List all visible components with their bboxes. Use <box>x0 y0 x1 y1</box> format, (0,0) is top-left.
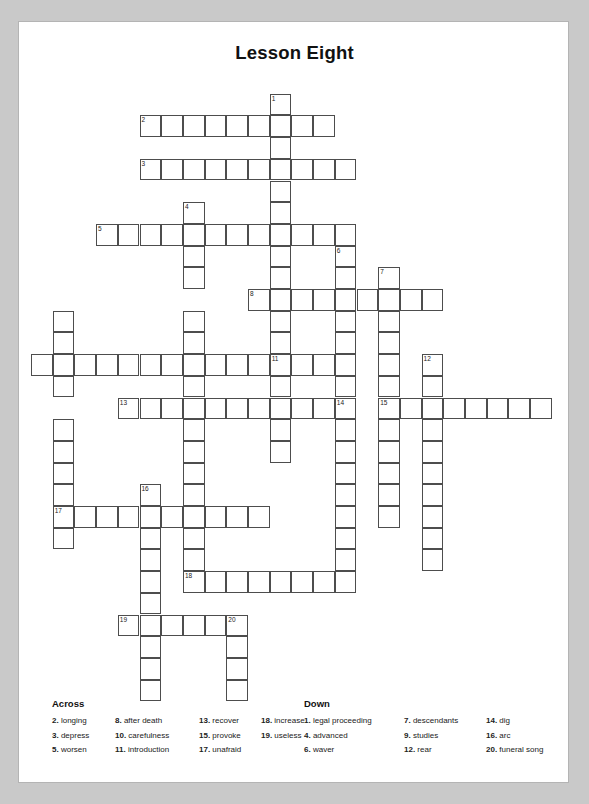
crossword-cell[interactable]: 3 <box>140 159 162 181</box>
crossword-cell[interactable] <box>183 441 205 463</box>
crossword-cell[interactable] <box>422 506 444 528</box>
crossword-cell[interactable] <box>140 528 162 550</box>
crossword-cell[interactable] <box>422 376 444 398</box>
crossword-cell[interactable] <box>205 224 227 246</box>
crossword-cell[interactable]: 16 <box>140 484 162 506</box>
crossword-cell[interactable] <box>118 224 140 246</box>
crossword-cell[interactable] <box>422 441 444 463</box>
crossword-cell[interactable] <box>291 289 313 311</box>
crossword-cell[interactable] <box>183 376 205 398</box>
crossword-cell[interactable] <box>270 137 292 159</box>
crossword-cell[interactable] <box>335 549 357 571</box>
crossword-cell[interactable] <box>226 224 248 246</box>
crossword-cell[interactable] <box>291 354 313 376</box>
crossword-cell[interactable] <box>53 463 75 485</box>
crossword-cell[interactable] <box>335 463 357 485</box>
crossword-cell[interactable]: 5 <box>96 224 118 246</box>
crossword-cell[interactable] <box>291 115 313 137</box>
crossword-cell[interactable] <box>270 246 292 268</box>
crossword-cell[interactable] <box>248 571 270 593</box>
crossword-cell[interactable] <box>205 354 227 376</box>
crossword-cell[interactable] <box>313 224 335 246</box>
crossword-cell[interactable] <box>291 398 313 420</box>
crossword-cell[interactable] <box>205 159 227 181</box>
crossword-cell[interactable] <box>226 115 248 137</box>
crossword-cell[interactable] <box>183 332 205 354</box>
crossword-cell[interactable] <box>270 398 292 420</box>
crossword-cell[interactable] <box>31 354 53 376</box>
crossword-cell[interactable]: 1 <box>270 94 292 116</box>
crossword-cell[interactable]: 15 <box>378 398 400 420</box>
crossword-cell[interactable] <box>378 463 400 485</box>
crossword-cell[interactable] <box>270 311 292 333</box>
crossword-cell[interactable] <box>313 289 335 311</box>
crossword-cell[interactable] <box>226 159 248 181</box>
crossword-cell[interactable] <box>96 354 118 376</box>
crossword-cell[interactable] <box>161 115 183 137</box>
crossword-cell[interactable] <box>183 506 205 528</box>
crossword-cell[interactable] <box>335 419 357 441</box>
crossword-cell[interactable] <box>183 159 205 181</box>
crossword-cell[interactable] <box>140 636 162 658</box>
crossword-cell[interactable]: 6 <box>335 246 357 268</box>
crossword-cell[interactable] <box>205 115 227 137</box>
crossword-cell[interactable] <box>226 636 248 658</box>
crossword-cell[interactable] <box>291 571 313 593</box>
crossword-cell[interactable] <box>313 354 335 376</box>
crossword-cell[interactable] <box>183 484 205 506</box>
crossword-cell[interactable] <box>140 571 162 593</box>
crossword-cell[interactable] <box>378 376 400 398</box>
crossword-cell[interactable] <box>183 224 205 246</box>
crossword-cell[interactable] <box>183 549 205 571</box>
crossword-cell[interactable] <box>183 419 205 441</box>
crossword-cell[interactable] <box>118 354 140 376</box>
crossword-cell[interactable] <box>335 506 357 528</box>
crossword-cell[interactable] <box>226 571 248 593</box>
crossword-cell[interactable] <box>422 398 444 420</box>
crossword-cell[interactable] <box>53 441 75 463</box>
crossword-cell[interactable] <box>183 246 205 268</box>
crossword-cell[interactable] <box>140 506 162 528</box>
crossword-cell[interactable] <box>465 398 487 420</box>
crossword-cell[interactable] <box>183 398 205 420</box>
crossword-cell[interactable] <box>335 441 357 463</box>
crossword-cell[interactable] <box>422 289 444 311</box>
crossword-cell[interactable] <box>508 398 530 420</box>
crossword-cell[interactable] <box>335 332 357 354</box>
crossword-cell[interactable] <box>378 484 400 506</box>
crossword-cell[interactable] <box>53 354 75 376</box>
crossword-cell[interactable] <box>422 549 444 571</box>
crossword-cell[interactable]: 19 <box>118 615 140 637</box>
crossword-cell[interactable] <box>248 506 270 528</box>
crossword-cell[interactable] <box>313 398 335 420</box>
crossword-cell[interactable] <box>161 615 183 637</box>
crossword-cell[interactable]: 7 <box>378 267 400 289</box>
crossword-cell[interactable] <box>313 571 335 593</box>
crossword-cell[interactable] <box>248 224 270 246</box>
crossword-cell[interactable] <box>378 311 400 333</box>
crossword-cell[interactable]: 2 <box>140 115 162 137</box>
crossword-cell[interactable] <box>183 463 205 485</box>
crossword-cell[interactable]: 17 <box>53 506 75 528</box>
crossword-cell[interactable] <box>335 311 357 333</box>
crossword-cell[interactable] <box>270 289 292 311</box>
crossword-cell[interactable] <box>378 419 400 441</box>
crossword-cell[interactable] <box>226 398 248 420</box>
crossword-cell[interactable] <box>270 224 292 246</box>
crossword-cell[interactable] <box>291 159 313 181</box>
crossword-cell[interactable]: 14 <box>335 398 357 420</box>
crossword-cell[interactable] <box>161 159 183 181</box>
crossword-cell[interactable] <box>226 354 248 376</box>
crossword-cell[interactable] <box>270 267 292 289</box>
crossword-cell[interactable]: 4 <box>183 202 205 224</box>
crossword-cell[interactable] <box>161 398 183 420</box>
crossword-cell[interactable] <box>378 354 400 376</box>
crossword-cell[interactable] <box>183 528 205 550</box>
crossword-cell[interactable] <box>335 528 357 550</box>
crossword-cell[interactable] <box>270 181 292 203</box>
crossword-cell[interactable] <box>530 398 552 420</box>
crossword-cell[interactable] <box>183 615 205 637</box>
crossword-cell[interactable] <box>313 115 335 137</box>
crossword-cell[interactable] <box>161 506 183 528</box>
crossword-cell[interactable]: 13 <box>118 398 140 420</box>
